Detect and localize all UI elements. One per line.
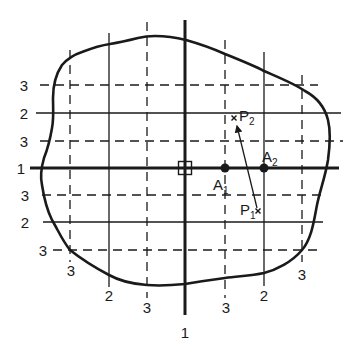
grid-diagram: A1 A2 P1 P2 3 2 3 1 3 2 3 3 2 3 1 3 2 3 <box>0 0 359 356</box>
bottom-label-2-right: 2 <box>260 287 268 304</box>
point-p1-cross-icon <box>256 209 261 214</box>
point-p2-cross-icon <box>232 116 237 121</box>
bottom-label-3-right: 3 <box>298 266 306 283</box>
main-axes <box>30 20 339 315</box>
label-p1: P1 <box>240 201 256 221</box>
bottom-label-3-inner-left: 3 <box>143 299 151 316</box>
bottom-label-1: 1 <box>181 324 189 341</box>
left-label-3-top: 3 <box>20 77 28 94</box>
left-label-3-lower: 3 <box>21 187 29 204</box>
left-label-2-top: 2 <box>20 105 28 122</box>
label-a1: A1 <box>213 176 229 196</box>
bottom-label-2-left: 2 <box>105 287 113 304</box>
left-label-1: 1 <box>17 160 25 177</box>
label-p2: P2 <box>239 107 255 127</box>
bottom-label-3-inner-right: 3 <box>222 299 230 316</box>
left-label-3-bottom: 3 <box>39 242 47 259</box>
bottom-label-3-left: 3 <box>67 262 75 279</box>
left-label-2-bottom: 2 <box>21 214 29 231</box>
left-label-3-upper: 3 <box>20 133 28 150</box>
point-a1-dot <box>221 164 230 173</box>
